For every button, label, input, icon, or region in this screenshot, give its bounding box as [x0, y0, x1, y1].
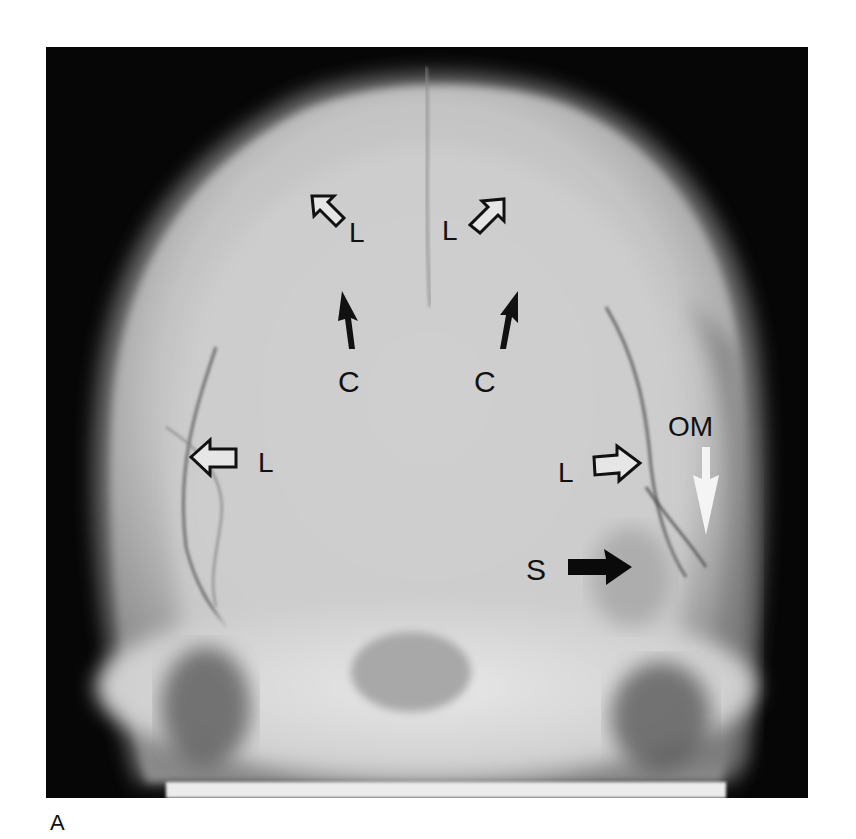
- solid-arrow-up-icon: [336, 291, 362, 351]
- radiograph-image: L L C C L L OM S: [46, 47, 808, 798]
- label-C-left: C: [338, 367, 360, 397]
- open-arrow-left-icon: [188, 437, 240, 479]
- open-arrow-up-right-icon: [464, 195, 508, 241]
- solid-arrow-right-icon: [566, 547, 636, 587]
- label-L-mid-right: L: [558, 459, 574, 487]
- label-L-top-right: L: [442, 217, 458, 245]
- label-L-mid-left: L: [258, 449, 274, 477]
- label-OM: OM: [668, 413, 713, 441]
- open-arrow-right-icon: [591, 443, 643, 489]
- open-arrow-up-left-icon: [308, 192, 352, 236]
- label-S: S: [526, 555, 546, 585]
- white-arrow-down-icon: [691, 447, 721, 537]
- solid-arrow-up-icon: [496, 291, 522, 351]
- label-C-right: C: [474, 367, 496, 397]
- panel-label: A: [50, 810, 65, 836]
- label-L-top-left: L: [349, 219, 365, 247]
